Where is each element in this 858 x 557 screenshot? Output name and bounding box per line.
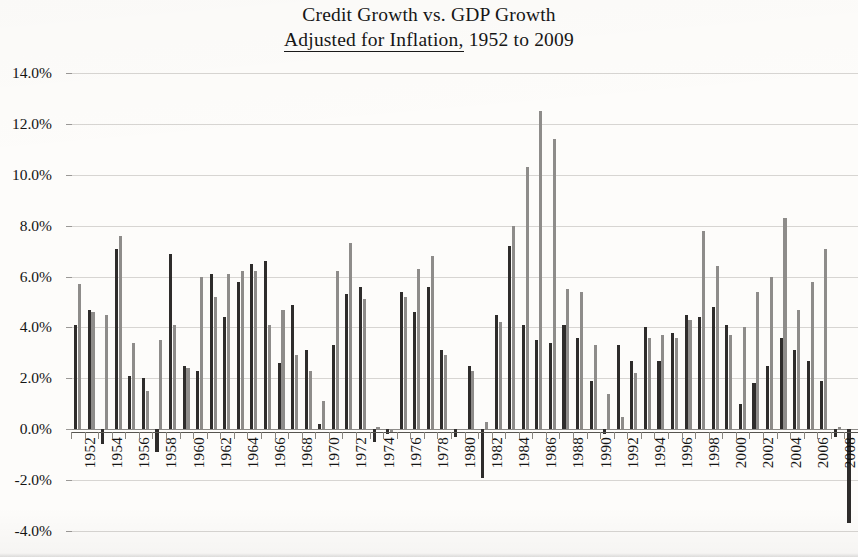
x-axis-tick [139,432,140,439]
x-axis-tick [302,432,303,439]
x-axis-tick [844,432,845,439]
x-axis-tick [451,432,452,439]
x-axis-tick [573,432,574,439]
x-axis-tick [397,432,398,439]
x-axis-label-2008: 2008 [842,437,858,468]
x-axis-tick [777,432,778,439]
x-axis-tick [709,432,710,439]
x-axis-tick [288,432,289,439]
x-axis-tick [668,432,669,439]
x-axis-tick [587,432,588,439]
y-axis-label: 4.0% [20,318,52,336]
y-axis-label: -4.0% [15,522,52,540]
x-axis-tick [166,432,167,439]
x-axis-tick [722,432,723,439]
y-axis-label: 2.0% [20,369,52,387]
x-axis-label-1982: 1982 [489,437,506,468]
x-axis-label-2000: 2000 [733,437,750,468]
x-axis-label-1954: 1954 [109,437,126,468]
x-axis-tick [383,432,384,439]
x-axis-label-1978: 1978 [435,437,452,468]
x-axis-tick [275,432,276,439]
x-axis-tick [614,432,615,439]
x-axis-tick [193,432,194,439]
x-axis-tick [329,432,330,439]
x-axis-tick [817,432,818,439]
x-axis-label-1952: 1952 [82,437,99,468]
x-axis-tick [261,432,262,439]
y-axis-label: 10.0% [12,166,52,184]
y-axis-label: 8.0% [20,217,52,235]
x-axis-tick [112,432,113,439]
x-axis-label-2006: 2006 [815,437,832,468]
x-axis-tick [695,432,696,439]
x-axis-tick [220,432,221,439]
x-axis-tick [410,432,411,439]
x-axis-tick [763,432,764,439]
x-axis-tick [98,432,99,439]
x-axis-tick [125,432,126,439]
x-axis-tick [559,432,560,439]
x-axis-tick [505,432,506,439]
x-axis-label-2004: 2004 [788,437,805,468]
x-axis-label-1960: 1960 [191,437,208,468]
y-axis-label: 12.0% [12,115,52,133]
x-axis-label-1976: 1976 [408,437,425,468]
x-axis-tick [654,432,655,439]
x-axis-tick [790,432,791,439]
y-axis-label: 6.0% [20,268,52,286]
x-axis-label-1964: 1964 [245,437,262,468]
x-axis-tick [627,432,628,439]
x-axis-label-1980: 1980 [462,437,479,468]
x-axis-tick [370,432,371,439]
x-axis-tick [315,432,316,439]
x-axis-tick [804,432,805,439]
x-axis-tick [180,432,181,439]
x-axis-tick [492,432,493,439]
x-axis-label-1984: 1984 [516,437,533,468]
x-axis-tick [478,432,479,439]
x-axis-label-1956: 1956 [136,437,153,468]
x-axis-tick [207,432,208,439]
x-axis-tick [749,432,750,439]
x-axis-tick [247,432,248,439]
x-axis-tick [831,432,832,439]
x-axis-label-1992: 1992 [625,437,642,468]
x-axis-label-2002: 2002 [760,437,777,468]
y-axis-label: -2.0% [15,471,52,489]
y-axis: 14.0%12.0%10.0%8.0%6.0%4.0%2.0%0.0%-2.0%… [0,0,66,557]
bar-chart: 14.0%12.0%10.0%8.0%6.0%4.0%2.0%0.0%-2.0%… [0,0,858,557]
x-axis-label-1970: 1970 [326,437,343,468]
x-axis-label-1966: 1966 [272,437,289,468]
page-bottom-shadow [0,553,858,557]
y-axis-label: 14.0% [12,64,52,82]
x-axis-tick [546,432,547,439]
x-axis-label-1996: 1996 [679,437,696,468]
x-axis-tick [641,432,642,439]
x-axis-tick [356,432,357,439]
x-axis-tick [424,432,425,439]
x-axis-tick [234,432,235,439]
x-axis-label-1990: 1990 [598,437,615,468]
x-axis-label-1998: 1998 [706,437,723,468]
x-axis-label-1968: 1968 [299,437,316,468]
x-axis-tick [71,432,72,439]
x-axis-label-1958: 1958 [163,437,180,468]
x-axis-tick [85,432,86,439]
x-axis-label-1986: 1986 [543,437,560,468]
x-axis-tick [465,432,466,439]
x-axis-label-1994: 1994 [652,437,669,468]
x-axis-tick [600,432,601,439]
x-axis-label-1988: 1988 [570,437,587,468]
x-axis-tick [342,432,343,439]
x-axis-tick [519,432,520,439]
x-axis-label-1974: 1974 [381,437,398,468]
x-axis-label-1962: 1962 [218,437,235,468]
x-axis-tick [437,432,438,439]
x-axis-labels: 1952195419561958196019621964196619681970… [71,0,858,557]
y-axis-label: 0.0% [20,420,52,438]
x-axis-label-1972: 1972 [353,437,370,468]
x-axis-tick [152,432,153,439]
x-axis-tick [682,432,683,439]
x-axis-tick [736,432,737,439]
